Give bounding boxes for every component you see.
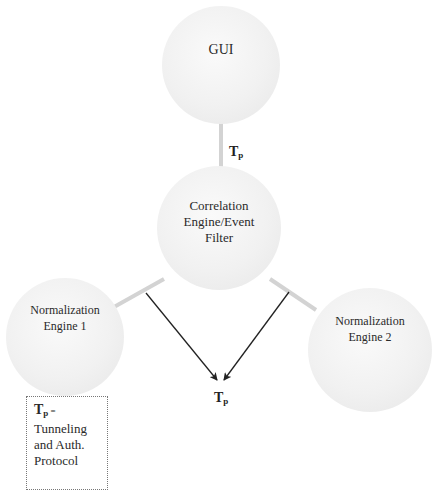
legend-line: Tunneling <box>34 421 107 437</box>
legend-box: Tp = Tunneling and Auth. Protocol <box>26 396 108 490</box>
legend-line: Protocol <box>34 453 107 469</box>
node-norm2-label: Normalization Engine 2 <box>335 313 404 345</box>
connector-correlation-norm2 <box>270 279 316 310</box>
connector-correlation-norm1 <box>114 279 164 307</box>
arrow-left <box>146 293 217 380</box>
tp-label-arrows: Tp <box>214 390 228 406</box>
arrow-right <box>224 292 289 380</box>
node-correlation-label: Correlation Engine/Event Filter <box>184 198 255 246</box>
node-normalization-engine-2: Normalization Engine 2 <box>308 288 432 412</box>
legend-line: and Auth. <box>34 437 107 453</box>
node-gui-label: GUI <box>209 42 234 58</box>
node-normalization-engine-1: Normalization Engine 1 <box>6 278 124 396</box>
tp-label-gui-link: Tp <box>229 144 243 160</box>
legend-key: Tp = <box>34 402 107 421</box>
node-correlation-engine: Correlation Engine/Event Filter <box>157 166 281 290</box>
node-norm1-label: Normalization Engine 1 <box>30 302 99 334</box>
node-gui: GUI <box>162 6 280 124</box>
